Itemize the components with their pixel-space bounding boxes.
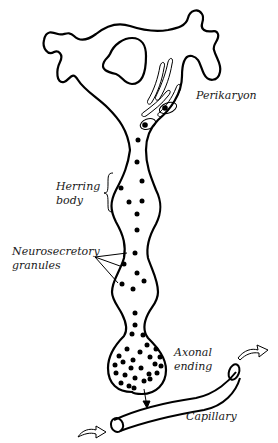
neurosecretory-granules bbox=[113, 105, 168, 390]
nucleus-outline bbox=[103, 38, 146, 84]
label-herring-body-1: Herring bbox=[56, 180, 100, 193]
label-axonal-ending-2: ending bbox=[174, 360, 212, 373]
label-axonal-ending-1: Axonal bbox=[174, 346, 212, 359]
label-perikaryon: Perikaryon bbox=[196, 89, 257, 102]
label-capillary: Capillary bbox=[186, 410, 237, 423]
release-arrow bbox=[143, 389, 150, 408]
blood-flow-in-arrow bbox=[78, 426, 106, 438]
neuron-diagram bbox=[0, 0, 278, 443]
perikaryon-outline bbox=[44, 11, 221, 150]
capillary bbox=[109, 363, 241, 434]
label-neurosecretory-1: Neurosecretory bbox=[12, 245, 100, 258]
label-herring-body-2: body bbox=[56, 194, 83, 207]
blood-flow-out-arrow bbox=[238, 345, 268, 360]
label-neurosecretory-2: granules bbox=[12, 259, 61, 272]
